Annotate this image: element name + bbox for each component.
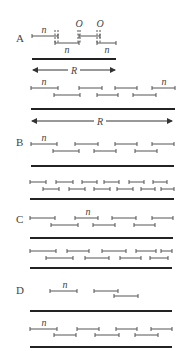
panel-label: A <box>16 32 24 44</box>
read-length-label: n <box>42 76 47 87</box>
sequencing-reads-diagram: AnnnOORnnRBnCnDnn <box>0 0 188 351</box>
read-length-label: n <box>162 76 167 87</box>
read-length-label: n <box>42 317 47 328</box>
panel-label: D <box>16 284 24 296</box>
read-length-label: n <box>63 279 68 290</box>
read-length-label: n <box>105 44 110 55</box>
read-length-label: n <box>42 24 47 35</box>
range-label: R <box>70 65 77 76</box>
overlap-label: O <box>75 18 82 29</box>
panel-label: C <box>16 213 23 225</box>
read-length-label: n <box>42 132 47 143</box>
range-label: R <box>96 116 103 127</box>
panel-label: B <box>16 136 23 148</box>
read-length-label: n <box>65 44 70 55</box>
read-length-label: n <box>86 206 91 217</box>
overlap-label: O <box>96 18 103 29</box>
